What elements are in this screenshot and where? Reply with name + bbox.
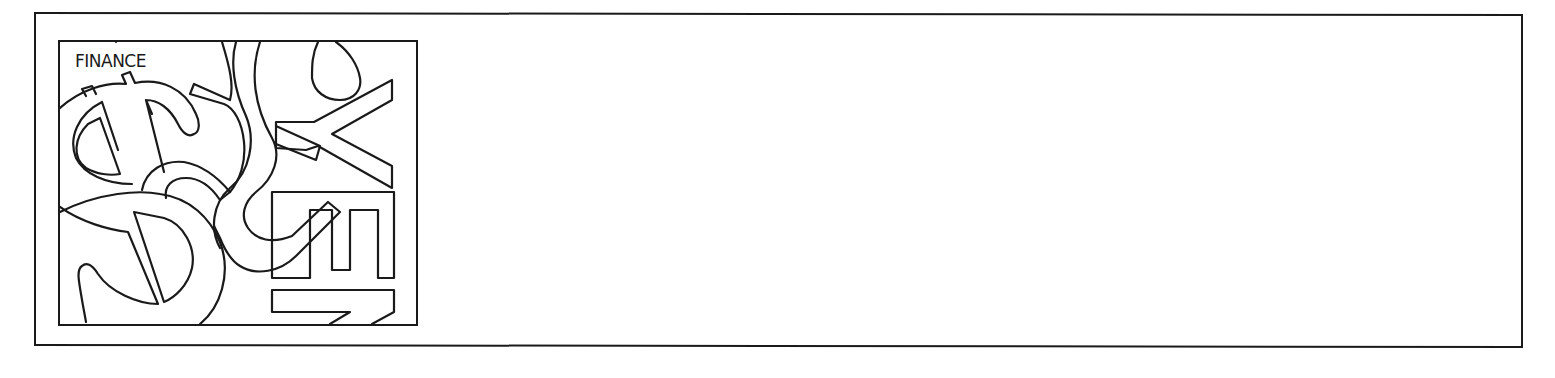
content-area bbox=[430, 20, 1515, 340]
dollar-sign-upper-icon bbox=[60, 72, 199, 184]
currency-symbols-icon bbox=[60, 42, 416, 324]
curve-stroke-icon bbox=[214, 42, 340, 271]
finance-clipart: FINANCE bbox=[58, 40, 418, 326]
dollar-sign-lower-icon bbox=[60, 207, 158, 322]
clipart-label: FINANCE bbox=[75, 51, 146, 71]
drop-icon bbox=[312, 42, 360, 100]
